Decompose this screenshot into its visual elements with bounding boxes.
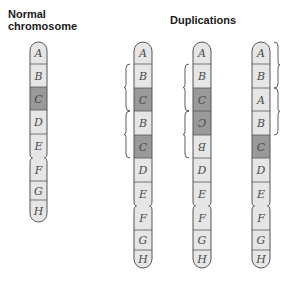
segment-label: B [256, 70, 265, 83]
segment-label: B [197, 70, 206, 83]
segment-label: E [138, 188, 147, 201]
segment-label: F [138, 212, 147, 225]
chromosome-normal: ABCDEFGH [28, 42, 49, 222]
segment-label: G [34, 185, 43, 198]
brace-icon [183, 64, 189, 111]
segment-label: E [33, 140, 42, 153]
segment-label: D [256, 164, 266, 177]
brace-icon [274, 88, 280, 135]
segment-label: G [198, 234, 207, 247]
segment-label: G [139, 234, 148, 247]
segment-label: E [256, 188, 265, 201]
segment-label: B [198, 140, 207, 153]
segment-label: B [256, 117, 265, 130]
segment-label: C [197, 116, 206, 129]
segment-label: A [256, 94, 265, 107]
brace-icon [124, 64, 130, 111]
segment-label: C [139, 141, 148, 154]
segment-label: B [33, 70, 42, 83]
segment-label: F [256, 212, 265, 225]
segment-label: D [138, 164, 148, 177]
segment-label: G [257, 234, 266, 247]
segment-label: B [138, 117, 147, 130]
chromosome-tandem-duplication: ABCBCDEFGH [124, 42, 154, 268]
brace-icon [274, 42, 280, 88]
segment-label: C [34, 93, 43, 106]
segment-label: F [197, 212, 206, 225]
segment-label: H [255, 253, 266, 266]
segment-label: C [257, 141, 266, 154]
segment-label: B [138, 70, 147, 83]
segment-label: F [34, 164, 43, 177]
segment-label: D [33, 116, 43, 129]
segment-label: A [138, 47, 147, 60]
chromosome-diagram: ABCDEFGHABCBCDEFGHABCCBDEFGHABABCDEFGH [0, 0, 296, 284]
brace-icon [124, 111, 130, 158]
segment-label: A [34, 47, 43, 60]
segment-label: H [196, 253, 207, 266]
chromosome-reverse-tandem-duplication: ABCCBDEFGH [183, 42, 213, 268]
chromosome-terminal-tandem-duplication: ABABCDEFGH [250, 42, 280, 268]
segment-label: C [139, 94, 148, 107]
segment-label: C [198, 94, 207, 107]
segment-label: A [256, 47, 265, 60]
segment-label: A [197, 47, 206, 60]
segment-label: D [197, 164, 207, 177]
brace-icon [183, 111, 189, 158]
segment-label: H [137, 253, 148, 266]
segment-label: E [197, 188, 206, 201]
segment-label: H [33, 205, 44, 218]
